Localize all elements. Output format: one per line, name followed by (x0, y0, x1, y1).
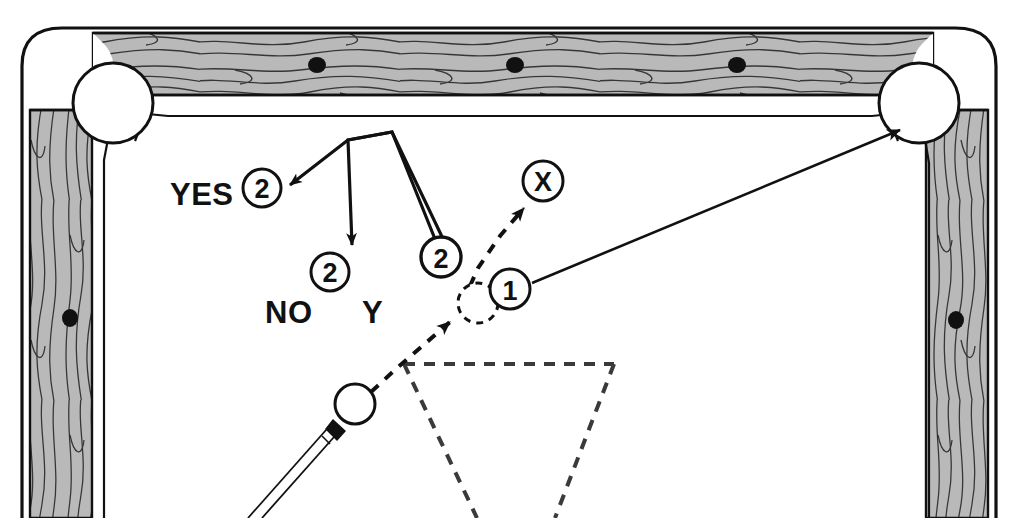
object-ball-one-text: 1 (502, 276, 517, 306)
left-rail (30, 110, 92, 518)
no-label: NO (265, 295, 313, 330)
ball-label-two-contact: 2 (421, 237, 461, 277)
ball-label-two-contact-text: 2 (433, 244, 448, 274)
yes-label: YES (170, 177, 234, 212)
diagram-canvas: 2 2 2 1 X YES NO Y (0, 0, 1017, 518)
diamond-left-1 (62, 309, 78, 327)
object-ball-one: 1 (490, 269, 530, 309)
top-right-pocket (879, 63, 959, 143)
billiard-table-svg: 2 2 2 1 X YES NO Y (0, 0, 1017, 518)
y-label: Y (362, 295, 383, 330)
ball-label-two-no: 2 (311, 253, 349, 291)
diamond-top-2 (506, 57, 524, 73)
ball-label-two-yes-text: 2 (254, 174, 269, 204)
x-marker-text: X (534, 167, 552, 197)
diamond-right-1 (948, 311, 964, 329)
x-marker: X (523, 161, 563, 201)
ball-label-two-yes: 2 (243, 169, 281, 207)
ball-label-two-no-text: 2 (322, 258, 337, 288)
diamond-top-1 (308, 57, 326, 73)
diamond-top-3 (728, 57, 746, 73)
top-left-pocket (73, 63, 153, 143)
cue-ball (335, 384, 375, 424)
